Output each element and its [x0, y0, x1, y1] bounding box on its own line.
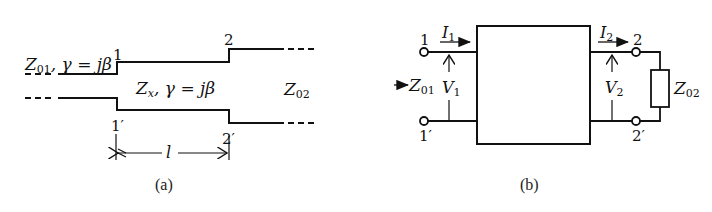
figure-canvas: Z01, γ = jβ Zx, γ = jβ Z02 1 1′ 2 2′ l (… [0, 0, 712, 212]
port-2-label-b: 2 [633, 31, 643, 49]
right-line-label: Z02 [283, 79, 310, 101]
impedance-label-z01: Z01 [408, 75, 435, 97]
length-label: l [166, 143, 171, 162]
voltage-label-v2: V2 [605, 78, 624, 99]
middle-line-label: Zx, γ = jβ [135, 78, 215, 100]
length-dimension [116, 134, 229, 160]
figure-b-two-port-network: 1 1′ 2 2′ I1 I2 V1 V2 Z01 Z02 (b) [394, 23, 700, 194]
bottom-conductor [25, 98, 318, 123]
port-2-label: 2 [224, 31, 234, 49]
output-wires [590, 52, 660, 121]
left-line-label: Z01, γ = jβ [24, 54, 112, 76]
current-label-i1: I1 [441, 23, 455, 44]
caption-a: (a) [155, 176, 173, 194]
port-1-label-b: 1 [420, 31, 430, 49]
terminal-2p [632, 117, 640, 125]
figure-a-transmission-line: Z01, γ = jβ Zx, γ = jβ Z02 1 1′ 2 2′ l (… [24, 31, 318, 194]
port-1p-label: 1′ [111, 117, 125, 135]
impedance-label-z02: Z02 [673, 78, 700, 100]
port-1p-label-b: 1′ [419, 127, 433, 145]
terminal-1 [420, 48, 428, 56]
two-port-box [477, 26, 590, 144]
port-1-label: 1 [113, 46, 123, 64]
current-label-i2: I2 [599, 23, 613, 44]
terminal-1p [420, 117, 428, 125]
voltage-label-v1: V1 [442, 78, 461, 99]
caption-b: (b) [520, 176, 539, 194]
port-2p-label-b: 2′ [632, 127, 646, 145]
terminal-2 [632, 48, 640, 56]
load-impedance-z02 [651, 70, 669, 107]
